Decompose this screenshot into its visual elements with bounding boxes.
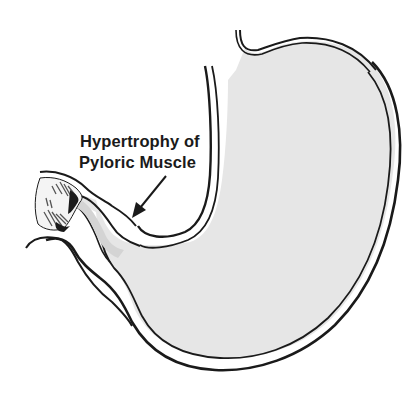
duodenum-cut-end <box>35 177 82 232</box>
annotation-label-line1: Hypertrophy of <box>80 131 200 152</box>
stomach-illustration <box>0 0 416 395</box>
annotation-label-line2: Pyloric Muscle <box>79 152 196 173</box>
annotation-arrow <box>132 176 166 218</box>
